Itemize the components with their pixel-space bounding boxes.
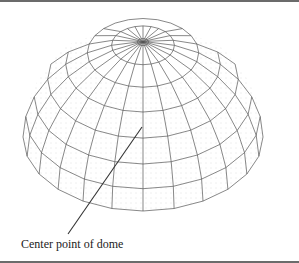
figure-frame: Center point of dome bbox=[0, 0, 299, 263]
callout-label: Center point of dome bbox=[21, 237, 123, 252]
dome-wireframe-drawing bbox=[0, 2, 299, 263]
